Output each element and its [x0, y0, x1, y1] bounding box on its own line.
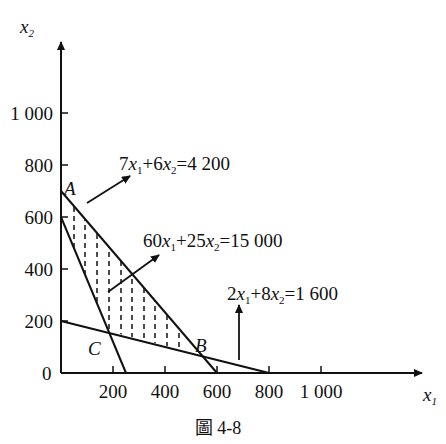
point-label-b: B: [195, 335, 207, 356]
x-tick-label: 600: [203, 381, 232, 402]
point-label-c: C: [88, 338, 101, 359]
x-tick-label: 1 000: [300, 381, 343, 402]
constraint-line-7x1-6x2: [61, 191, 217, 373]
x-tick-label: 400: [151, 381, 180, 402]
y-tick-label: 1 000: [10, 103, 53, 124]
x-tick-label: 800: [255, 381, 284, 402]
figure-caption: 圖 4-8: [195, 418, 242, 438]
y-tick-label: 800: [25, 155, 54, 176]
constraint-label-3: 2x1+8x2=1 600: [227, 283, 338, 306]
x-tick-label: 200: [99, 381, 128, 402]
axes: [61, 42, 422, 373]
y-tick-label: 200: [25, 311, 54, 332]
arrow-icon: [108, 255, 159, 292]
constraint-label-1: 7x1+6x2=4 200: [119, 153, 230, 176]
constraint-label-2: 60x1+25x2=15 000: [143, 230, 283, 253]
origin-label: 0: [42, 363, 52, 384]
y-tick-label: 400: [25, 259, 54, 280]
point-label-a: A: [62, 178, 76, 199]
x-axis-label: x1: [422, 384, 437, 407]
y-tick-label: 600: [25, 207, 54, 228]
arrow-icon: [87, 176, 130, 203]
y-axis-label: x2: [19, 16, 34, 39]
linear-programming-diagram: x2 x1 0 200 400 600 800 1 000 200 400 60…: [0, 0, 446, 444]
